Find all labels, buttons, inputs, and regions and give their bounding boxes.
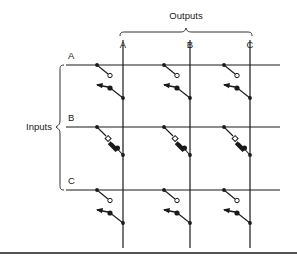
input-row-label-c: C bbox=[68, 175, 75, 186]
crosspoint-col-terminal bbox=[248, 153, 252, 157]
crosspoint-closed-contact-icon bbox=[174, 85, 179, 90]
crosspoint-closed-contact-icon bbox=[182, 146, 187, 151]
crosspoint-open-contact-icon bbox=[175, 73, 179, 77]
crosspoint-open-contact-icon bbox=[235, 73, 239, 77]
crosspoint-closed-contact-icon bbox=[174, 210, 179, 215]
input-row-label-b: B bbox=[68, 112, 74, 123]
inputs-group-label: Inputs bbox=[26, 121, 52, 132]
crosspoint-col-terminal bbox=[188, 153, 192, 157]
crosspoint-open-contact-icon bbox=[235, 198, 239, 202]
crosspoint-closed-contact-icon bbox=[107, 85, 112, 90]
crosspoint-col-terminal bbox=[188, 96, 192, 100]
crosspoint-col-terminal bbox=[248, 96, 252, 100]
input-row-label-a: A bbox=[68, 50, 75, 61]
crosspoint-col-terminal bbox=[121, 153, 125, 157]
crosspoint-closed-contact-icon bbox=[234, 85, 239, 90]
crosspoint-closed-contact-icon bbox=[234, 210, 239, 215]
crossbar-switch-matrix-figure: Outputs Inputs A B C A B C bbox=[0, 0, 297, 261]
crosspoint-col-terminal bbox=[248, 221, 252, 225]
crosspoint-closed-contact-icon bbox=[115, 146, 120, 151]
crosspoint-col-terminal bbox=[121, 221, 125, 225]
crosspoint-open-contact-icon bbox=[175, 198, 179, 202]
outputs-group-label: Outputs bbox=[169, 10, 203, 21]
crosspoint-open-contact-icon bbox=[108, 73, 112, 77]
crosspoint-col-terminal bbox=[121, 96, 125, 100]
crosspoint-closed-contact-icon bbox=[107, 210, 112, 215]
crosspoint-closed-contact-icon bbox=[242, 146, 247, 151]
crosspoint-open-contact-icon bbox=[108, 198, 112, 202]
crosspoint-col-terminal bbox=[188, 221, 192, 225]
